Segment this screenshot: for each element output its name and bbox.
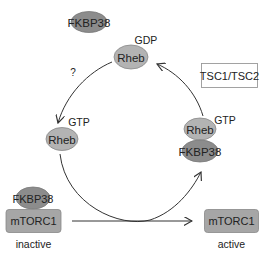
gdp-state-label: GDP [135,34,158,46]
fkbp38-free-label: FKBP38 [68,17,111,29]
inactive-status-label: inactive [16,238,52,250]
node-rheb-fkbp38-complex: Rheb GTP FKBP38 [179,114,236,162]
mtorc1-active-label: mTORC1 [208,215,254,227]
unknown-step-label: ? [70,67,76,78]
node-rheb-gdp: Rheb GDP [114,34,157,69]
rheb-gtp-left-label: Rheb [48,134,76,146]
rheb-fkbp38-mtorc1-diagram: FKBP38 Rheb GDP ? Rheb GTP TSC1/TSC2 Rhe… [0,0,271,258]
node-mtorc1-inactive-complex: FKBP38 mTORC1 inactive [6,187,61,250]
node-mtorc1-active: mTORC1 active [205,210,259,251]
rheb-gtp-right-label: Rheb [186,124,214,136]
arrow-gdp-to-gtp-left [58,62,112,123]
node-fkbp38-free: FKBP38 [68,12,111,33]
diagram-svg: FKBP38 Rheb GDP ? Rheb GTP TSC1/TSC2 Rhe… [0,0,271,258]
tsc1-tsc2-box: TSC1/TSC2 [200,64,259,88]
fkbp38-bound-right-label: FKBP38 [179,146,222,158]
arrow-gtp-right-to-gdp [157,64,203,116]
fkbp38-bound-left-label: FKBP38 [13,193,54,205]
arrow-gtp-left-to-complex [60,154,201,222]
node-rheb-gtp-left: Rheb GTP [46,116,90,151]
gtp-left-state-label: GTP [68,116,90,128]
mtorc1-inactive-label: mTORC1 [10,215,56,227]
gtp-right-state-label: GTP [214,114,236,126]
tsc-label: TSC1/TSC2 [200,70,259,82]
active-status-label: active [218,238,246,250]
rheb-gdp-label: Rheb [117,52,145,64]
